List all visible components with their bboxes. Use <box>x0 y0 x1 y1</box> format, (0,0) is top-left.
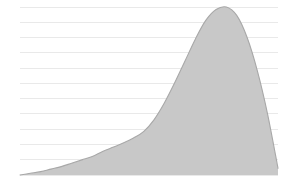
chart-container <box>0 0 295 185</box>
area-chart <box>0 0 295 185</box>
